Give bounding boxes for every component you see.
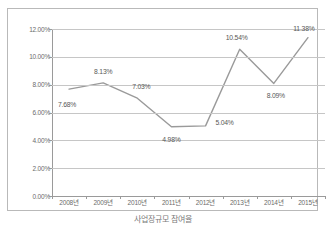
y-axis-tick-labels: 0.00%2.00%4.00%6.00%8.00%10.00%12.00% — [8, 29, 50, 196]
y-axis-tick-mark — [49, 113, 52, 114]
data-point-label: 7.03% — [132, 83, 150, 91]
y-axis-tick-label: 8.00% — [10, 81, 50, 88]
y-axis-tick-label: 4.00% — [10, 137, 50, 144]
x-axis-tick-mark — [86, 196, 87, 199]
y-axis-tick-mark — [49, 29, 52, 30]
y-axis-tick-mark — [49, 57, 52, 58]
chart-frame: 0.00%2.00%4.00%6.00%8.00%10.00%12.00% 20… — [7, 8, 318, 211]
chart-figure: 0.00%2.00%4.00%6.00%8.00%10.00%12.00% 20… — [0, 0, 326, 227]
gridline — [52, 140, 325, 141]
data-point-label: 8.09% — [267, 92, 285, 100]
x-axis-tick-mark — [189, 196, 190, 199]
x-axis-tick-mark — [223, 196, 224, 199]
x-axis-tick-mark — [257, 196, 258, 199]
data-point-label: 7.68% — [58, 101, 76, 109]
data-point-label: 11.38% — [293, 25, 314, 33]
gridline — [52, 29, 325, 30]
x-axis-tick-mark — [154, 196, 155, 199]
data-point-label: 5.04% — [215, 119, 233, 127]
x-axis-tick-mark — [120, 196, 121, 199]
y-axis-tick-label: 2.00% — [10, 165, 50, 172]
y-axis-tick-mark — [49, 168, 52, 169]
x-axis-tick-mark — [52, 196, 53, 199]
x-axis-tick-mark — [291, 196, 292, 199]
gridline — [52, 85, 325, 86]
y-axis-tick-label: 6.00% — [10, 109, 50, 116]
gridline — [52, 168, 325, 169]
gridline — [52, 113, 325, 114]
y-axis-tick-mark — [49, 85, 52, 86]
data-point-label: 10.54% — [226, 34, 248, 42]
gridline — [52, 57, 325, 58]
data-point-label: 4.98% — [162, 136, 180, 144]
y-axis-tick-label: 10.00% — [10, 53, 50, 60]
y-axis-tick-mark — [49, 140, 52, 141]
y-axis-tick-label: 0.00% — [10, 193, 50, 200]
x-axis-tick-labels: 2008년2009년2010년2011년2012년2013년2014년2015년 — [52, 199, 325, 215]
plot-area — [52, 29, 325, 196]
x-axis-tick-label: 2015년 — [288, 199, 326, 207]
data-point-label: 8.13% — [94, 68, 112, 76]
chart-caption: 사업장규모 참여율 — [0, 215, 326, 225]
y-axis-tick-label: 12.00% — [10, 26, 50, 33]
